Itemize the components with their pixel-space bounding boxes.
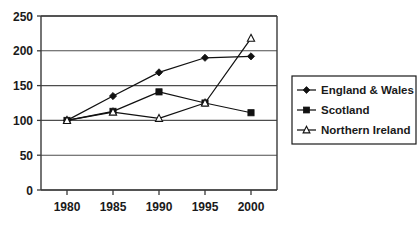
x-axis-tick-label: 1985	[100, 200, 127, 214]
line-chart: 050100150200250 19801985199019952000 Eng…	[0, 0, 420, 232]
legend-label: England & Wales	[321, 84, 414, 96]
x-axis-tick-label: 1980	[54, 200, 81, 214]
y-axis-tick-label: 100	[13, 114, 33, 128]
y-axis-tick-label: 0	[26, 184, 33, 198]
data-point-filled-square	[156, 89, 162, 95]
x-axis-tick-label: 1990	[146, 200, 173, 214]
data-point-filled-square	[248, 110, 254, 116]
x-axis-tick-label: 1995	[192, 200, 219, 214]
legend-label: Northern Ireland	[321, 124, 410, 136]
y-axis-tick-label: 250	[13, 10, 33, 24]
y-axis-tick-label: 50	[20, 149, 34, 163]
chart-canvas: 050100150200250 19801985199019952000 Eng…	[0, 0, 420, 232]
legend-label: Scotland	[321, 104, 370, 116]
chart-legend: England & WalesScotlandNorthern Ireland	[292, 76, 416, 144]
y-axis-tick-label: 150	[13, 79, 33, 93]
data-point-filled-square	[304, 107, 310, 113]
y-axis-tick-label: 200	[13, 44, 33, 58]
x-axis-tick-label: 2000	[238, 200, 265, 214]
